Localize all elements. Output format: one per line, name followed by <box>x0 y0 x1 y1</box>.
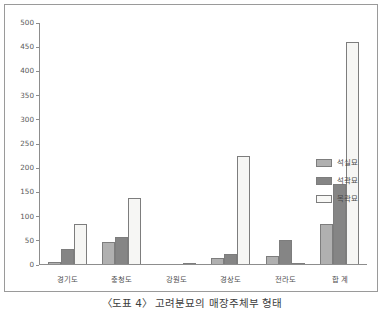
y-axis-tick-mark <box>36 95 39 96</box>
y-axis-tick-label: 350 <box>20 90 34 101</box>
bar <box>266 256 279 264</box>
bar <box>279 240 292 264</box>
bar-group <box>95 23 150 264</box>
bar <box>102 242 115 264</box>
bar <box>128 198 141 264</box>
bar-group <box>204 23 259 264</box>
y-axis-tick-label: 100 <box>20 211 34 222</box>
bar <box>211 258 224 264</box>
plot-area: 050100150200250300350400450500 <box>39 23 367 265</box>
bar <box>237 156 250 264</box>
x-axis-label: 충청도 <box>95 273 150 287</box>
x-axis-label: 전라도 <box>258 273 313 287</box>
bar <box>183 263 196 264</box>
y-axis-tick-mark <box>36 192 39 193</box>
y-axis-tick-label: 200 <box>20 162 34 173</box>
bar <box>74 224 87 264</box>
figure: 050100150200250300350400450500 경기도충청도강원도… <box>0 0 384 312</box>
x-axis-label: 경상도 <box>204 273 259 287</box>
bar <box>292 263 305 264</box>
x-axis-labels: 경기도충청도강원도경상도전라도합 계 <box>40 273 367 287</box>
y-axis-tick-mark <box>36 168 39 169</box>
y-axis-tick-label: 150 <box>20 186 34 197</box>
y-axis-tick-mark <box>36 71 39 72</box>
legend-label: 석실묘 <box>337 158 358 168</box>
y-axis-tick-mark <box>36 47 39 48</box>
y-axis-tick-label: 0 <box>29 259 34 270</box>
x-axis-label: 합 계 <box>313 273 368 287</box>
y-axis-tick-label: 400 <box>20 65 34 76</box>
legend-item: 석곽묘 <box>316 173 378 189</box>
y-axis-tick-mark <box>36 240 39 241</box>
legend-label: 목곽묘 <box>337 194 358 204</box>
bar-group <box>149 23 204 264</box>
legend-label: 석곽묘 <box>337 176 358 186</box>
bar <box>346 42 359 264</box>
bar-group <box>313 23 368 264</box>
legend-swatch <box>316 159 332 167</box>
bar-group <box>258 23 313 264</box>
bar <box>224 254 237 264</box>
legend-item: 석실묘 <box>316 155 378 171</box>
figure-caption: 〈도표 4〉 고려분묘의 매장주체부 형태 <box>0 297 384 310</box>
bar-group <box>40 23 95 264</box>
chart-legend: 석실묘석곽묘목곽묘 <box>316 155 378 209</box>
y-axis-tick-mark <box>36 216 39 217</box>
y-axis-tick-label: 300 <box>20 114 34 125</box>
chart-frame: 050100150200250300350400450500 경기도충청도강원도… <box>4 4 378 292</box>
y-axis-tick-label: 450 <box>20 41 34 52</box>
bar <box>320 224 333 264</box>
y-axis-tick-mark <box>36 119 39 120</box>
legend-item: 목곽묘 <box>316 191 378 207</box>
y-axis-tick-mark <box>36 144 39 145</box>
legend-swatch <box>316 195 332 203</box>
y-axis-tick-mark <box>36 23 39 24</box>
x-axis-label: 강원도 <box>149 273 204 287</box>
x-axis-line <box>39 264 367 265</box>
y-axis-tick-label: 500 <box>20 17 34 28</box>
bar <box>61 249 74 264</box>
y-axis-tick-mark <box>36 265 39 266</box>
bar <box>115 237 128 264</box>
legend-swatch <box>316 177 332 185</box>
x-axis-label: 경기도 <box>40 273 95 287</box>
bars-layer <box>40 23 367 264</box>
bar <box>48 262 61 264</box>
y-axis-tick-label: 50 <box>25 235 34 246</box>
y-axis-tick-label: 250 <box>20 138 34 149</box>
